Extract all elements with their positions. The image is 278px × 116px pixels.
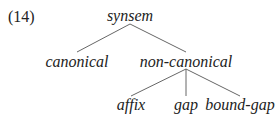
node-synsem: synsem <box>107 8 153 24</box>
node-bound-gap: bound-gap <box>205 97 274 113</box>
node-gap: gap <box>174 97 198 113</box>
edge-synsem-canonical <box>77 24 130 52</box>
edge-noncanonical-boundgap <box>186 69 240 96</box>
edge-synsem-noncanonical <box>130 24 186 52</box>
node-non-canonical: non-canonical <box>140 54 232 70</box>
node-affix: affix <box>117 97 145 113</box>
edge-noncanonical-affix <box>131 69 186 96</box>
example-number: (14) <box>8 9 35 25</box>
node-canonical: canonical <box>45 54 108 70</box>
